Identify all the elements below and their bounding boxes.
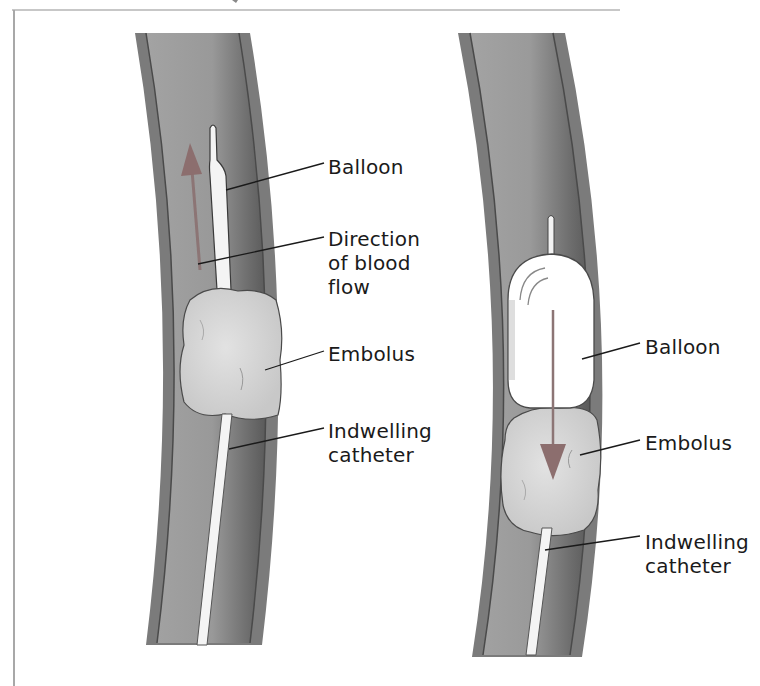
inflated-balloon [508, 254, 594, 408]
embolus-left [180, 288, 282, 419]
label-indwelling-catheter-after: Indwelling catheter [645, 530, 749, 578]
label-blood-flow-direction: Direction of blood flow [328, 227, 420, 299]
panel-before [135, 33, 324, 645]
label-indwelling-catheter-before: Indwelling catheter [328, 419, 432, 467]
label-embolus-after: Embolus [645, 431, 732, 455]
label-embolus-before: Embolus [328, 342, 415, 366]
label-balloon-before: Balloon [328, 155, 404, 179]
label-balloon-after: Balloon [645, 335, 721, 359]
panel-after [458, 33, 640, 657]
